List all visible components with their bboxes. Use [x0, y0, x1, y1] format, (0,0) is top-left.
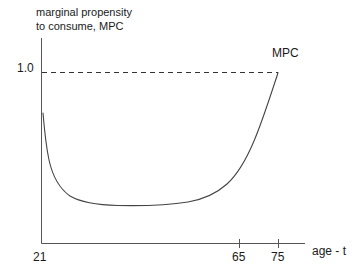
- mpc-curve: [43, 73, 278, 206]
- y-axis-title-line2: to consume, MPC: [36, 20, 123, 32]
- y-axis-title-line1: marginal propensity: [36, 6, 132, 18]
- series-label-mpc: MPC: [272, 47, 299, 60]
- x-axis-title: age - t: [312, 245, 346, 258]
- y-tick-label-1.0: 1.0: [17, 62, 34, 75]
- y-axis-title: marginal propensityto consume, MPC: [36, 5, 132, 33]
- x-tick-label-21: 21: [33, 251, 46, 264]
- chart-figure: marginal propensityto consume, MPC 1.0 M…: [0, 0, 358, 273]
- x-tick-label-75: 75: [271, 251, 284, 264]
- x-tick-label-65: 65: [232, 251, 245, 264]
- plot-area: [0, 0, 358, 273]
